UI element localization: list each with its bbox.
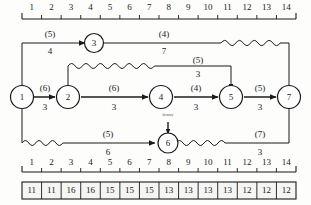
top-tick-label: 6 [122,3,138,12]
edge-duration-1-3: (5) [38,30,62,39]
top-tick-label: 2 [43,3,59,12]
bottom-tick-label: 1 [24,158,40,167]
top-tick-label: 14 [278,3,294,12]
resource-cell: 11 [41,186,61,195]
edge-duration-4-5: (4) [184,84,208,93]
resource-cell: 16 [81,186,101,195]
edge-duration-2-4: (6) [102,84,126,93]
resource-cell: 13 [218,186,238,195]
resource-cell: 13 [159,186,179,195]
bottom-tick-label: 8 [161,158,177,167]
edge-resource-6-7: 3 [248,148,272,157]
top-tick-label: 13 [259,3,275,12]
bottom-tick-label: 14 [278,158,294,167]
node-label-3: 3 [87,39,101,48]
edge-duration-3-7: (4) [152,30,176,39]
bottom-tick-label: 6 [122,158,138,167]
top-tick-label: 8 [161,3,177,12]
top-tick-label: 5 [102,3,118,12]
bottom-tick-label: 4 [83,158,99,167]
resource-cell: 15 [139,186,159,195]
top-tick-label: 7 [141,3,157,12]
dummy-activity-label: dummy [153,114,183,117]
node-label-2: 2 [61,93,75,102]
node-label-1: 1 [15,93,29,102]
bottom-tick-label: 7 [141,158,157,167]
bottom-tick-label: 13 [259,158,275,167]
edge-duration-6-7: (7) [248,130,272,139]
resource-cell: 16 [61,186,81,195]
edge-resource-2-5: 3 [186,70,210,79]
edge-resource-2-4: 3 [102,103,126,112]
edge-resource-1-2: 3 [33,103,57,112]
edge-resource-5-7: 3 [248,103,272,112]
node-label-4: 4 [154,93,168,102]
edge-resource-1-6: 6 [96,148,120,157]
resource-cell: 15 [120,186,140,195]
bottom-tick-label: 3 [63,158,79,167]
resource-cell: 11 [22,186,42,195]
bottom-tick-label: 12 [239,158,255,167]
top-tick-label: 1 [24,3,40,12]
top-tick-label: 4 [83,3,99,12]
resource-cell: 13 [178,186,198,195]
edge-duration-2-5: (5) [186,56,210,65]
top-tick-label: 10 [200,3,216,12]
resource-cell: 15 [100,186,120,195]
node-label-7: 7 [282,93,296,102]
bottom-tick-label: 10 [200,158,216,167]
edge-resource-4-5: 3 [184,103,208,112]
bottom-tick-label: 5 [102,158,118,167]
resource-cell: 13 [198,186,218,195]
top-tick-label: 12 [239,3,255,12]
node-label-5: 5 [224,93,238,102]
edge-duration-5-7: (5) [248,84,272,93]
top-tick-label: 3 [63,3,79,12]
resource-cell: 12 [237,186,257,195]
top-tick-label: 11 [220,3,236,12]
edge-duration-1-2: (6) [33,84,57,93]
edge-resource-1-3: 4 [38,47,62,56]
network-diagram-figure: 1 2 3 4 5 6 7 8 9 10 11 12 13 14 (5) 4 (… [0,0,311,205]
bottom-tick-label: 11 [220,158,236,167]
edge-resource-3-7: 7 [152,47,176,56]
edge-duration-1-6: (5) [96,130,120,139]
resource-cell: 12 [257,186,277,195]
bottom-tick-label: 2 [43,158,59,167]
resource-cell: 12 [276,186,296,195]
bottom-tick-label: 9 [180,158,196,167]
top-ruler-graphic [22,13,296,19]
node-label-6: 6 [161,139,175,148]
top-tick-label: 9 [180,3,196,12]
